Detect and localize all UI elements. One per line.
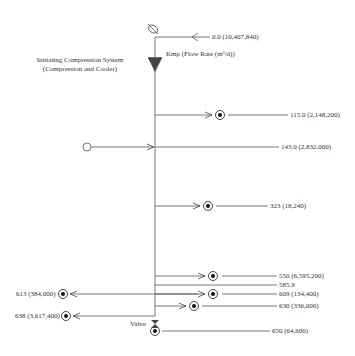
node-label: 609 (134,400) [279, 290, 319, 298]
node-label: 550 (6,595,200) [279, 272, 324, 280]
well-icon [204, 202, 213, 211]
node-label: 323 (18,240) [270, 202, 306, 210]
valve-label: Valve [130, 320, 146, 328]
compressor-icon [148, 58, 162, 72]
open-inlet-icon [83, 143, 91, 151]
well-icon [216, 111, 225, 120]
node-label: 613 (384,000) [16, 290, 56, 298]
node-label: 115.0 (2,148,200) [290, 111, 340, 119]
diagram-title: Kmp (Flow Rate (m³/d)) [166, 50, 235, 58]
well-icon [62, 312, 71, 321]
system-label-line1: Initiating Compression System [20, 56, 140, 64]
node-label: 638 (3,617,400) [15, 312, 60, 320]
well-icon [209, 290, 218, 299]
well-icon [190, 302, 199, 311]
well-icon [59, 290, 68, 299]
well-nodes [59, 111, 225, 336]
node-label: 585.9 [279, 281, 295, 289]
system-label-line2: (Compression and Cooler) [20, 65, 140, 73]
valve-icon [151, 320, 159, 328]
top-inlet-label: 0.0 (10,407,840) [212, 33, 259, 41]
node-label: 630 (336,000) [279, 302, 319, 310]
node-label: 650 (64,600) [272, 327, 308, 335]
source-icon [147, 23, 159, 34]
node-label: 143.0 (2,832,000) [281, 143, 331, 151]
well-icon [209, 272, 218, 281]
